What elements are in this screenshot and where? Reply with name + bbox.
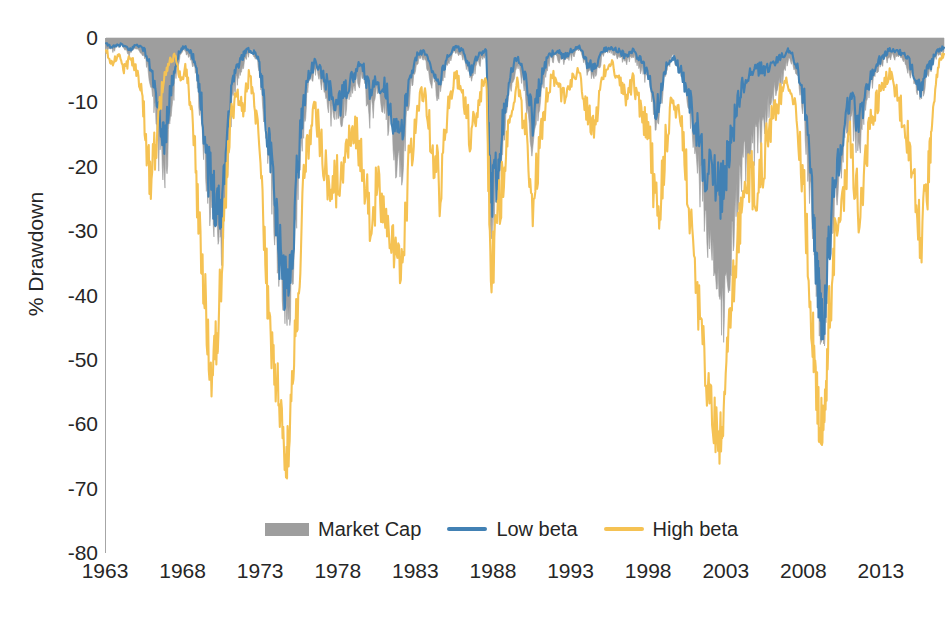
legend-swatch-icon [265,523,309,536]
legend-swatch-icon [447,527,487,531]
chart-figure: % Drawdown 0-10-20-30-40-50-60-70-80 196… [0,0,949,623]
y-tick-label: -20 [42,156,98,177]
legend-label: Low beta [496,519,577,539]
x-tick-label: 1978 [303,560,373,581]
y-axis-tick-labels: 0-10-20-30-40-50-60-70-80 [36,0,98,623]
legend-item-market-cap[interactable]: Market Cap [265,519,421,539]
x-tick-label: 1963 [70,560,140,581]
y-tick-label: 0 [42,27,98,48]
legend-label: High beta [653,519,739,539]
legend-item-low-beta[interactable]: Low beta [447,519,577,539]
y-tick-label: -60 [42,413,98,434]
x-tick-label: 2008 [768,560,838,581]
x-tick-label: 1998 [613,560,683,581]
legend-label: Market Cap [318,519,421,539]
x-tick-label: 1968 [148,560,218,581]
y-tick-label: -10 [42,91,98,112]
plot-area [105,38,943,553]
x-tick-label: 2013 [846,560,916,581]
x-axis-tick-labels: 1963196819731978198319881993199820032008… [0,560,949,590]
y-tick-label: -50 [42,349,98,370]
legend-item-high-beta[interactable]: High beta [604,519,739,539]
x-tick-label: 1993 [536,560,606,581]
chart-legend: Market CapLow betaHigh beta [265,516,745,542]
x-tick-label: 1983 [380,560,450,581]
x-tick-label: 1988 [458,560,528,581]
x-tick-label: 1973 [225,560,295,581]
y-tick-label: -40 [42,285,98,306]
y-tick-label: -70 [42,478,98,499]
x-tick-label: 2003 [691,560,761,581]
y-tick-label: -30 [42,220,98,241]
drawdown-chart-svg [106,38,944,553]
legend-swatch-icon [604,527,644,531]
